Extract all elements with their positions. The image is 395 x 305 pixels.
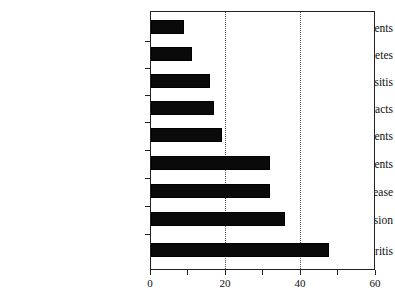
x-axis-tick-label-60: 60: [355, 277, 395, 290]
x-axis-tick-0: [150, 270, 151, 275]
bar-heart-disease: [151, 184, 270, 198]
bar-hypertension: [151, 212, 285, 226]
bar-arthritis: [151, 243, 329, 257]
bar-hearing-impairments: [151, 156, 270, 170]
bar-sinusitis: [151, 74, 210, 88]
bar-orthopedic-impairments: [151, 128, 222, 142]
gridline-20: [225, 12, 226, 269]
x-axis-tick-label-20: 20: [205, 277, 245, 290]
x-axis-tick-40: [300, 270, 301, 275]
x-axis-tick-10: [187, 270, 188, 275]
gridline-40: [300, 12, 301, 269]
x-axis-tick-20: [225, 270, 226, 275]
bar-diabetes: [151, 47, 192, 61]
x-axis-tick-30: [262, 270, 263, 275]
x-axis-tick-50: [337, 270, 338, 275]
bar-visual-impairments: [151, 20, 184, 34]
x-axis-tick-label-40: 40: [280, 277, 320, 290]
bar-cataracts: [151, 101, 214, 115]
x-axis-tick-60: [375, 270, 376, 275]
x-axis-tick-label-0: 0: [130, 277, 170, 290]
plot-area: [150, 11, 375, 270]
